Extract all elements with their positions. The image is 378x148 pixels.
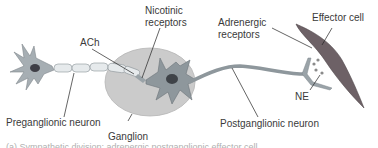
label-nicotinic-line1: Nicotinic [145, 5, 183, 16]
preganglionic-cell-body [10, 44, 54, 90]
figure-caption: (a) Sympathetic division: adrenergic pos… [6, 142, 257, 148]
label-ganglion: Ganglion [108, 131, 148, 142]
label-adrenergic-line2: receptors [218, 29, 260, 40]
label-ne: NE [295, 91, 309, 102]
postganglionic-axon [190, 66, 305, 82]
label-adrenergic-line1: Adrenergic [218, 17, 266, 28]
ne-vesicles [312, 58, 323, 74]
label-postganglionic-neuron: Postganglionic neuron [220, 118, 319, 129]
label-ach: ACh [80, 37, 99, 48]
label-preganglionic-neuron: Preganglionic neuron [6, 117, 101, 128]
label-effector-cell: Effector cell [312, 12, 364, 23]
sympathetic-pathway-diagram: Nicotinic receptors ACh Adrenergic recep… [0, 0, 378, 148]
label-nicotinic-line2: receptors [145, 17, 187, 28]
